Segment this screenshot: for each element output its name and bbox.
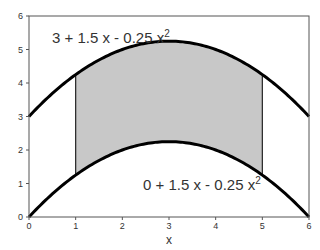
y-tick-label: 2 [18,145,23,155]
y-tick-label: 0 [18,212,23,222]
upper-curve-label: 3 + 1.5 x - 0.25 x2 [52,28,170,46]
x-tick-label: 4 [213,221,218,231]
x-tick-label: 5 [260,221,265,231]
y-tick-label: 3 [18,112,23,122]
y-tick-label: 4 [18,78,23,88]
shaded-region [76,41,263,175]
x-axis-label: x [166,233,172,247]
y-tick-label: 6 [18,11,23,21]
x-tick-label: 3 [166,221,171,231]
y-tick-label: 5 [18,45,23,55]
y-tick-label: 1 [18,179,23,189]
x-tick-label: 6 [306,221,311,231]
shaded-area [76,41,263,175]
y-axis-ticks: 0123456 [18,11,29,222]
x-tick-label: 2 [120,221,125,231]
chart-svg: 0123456 0123456 x 3 + 1.5 x - 0.25 x2 0 … [0,0,320,250]
x-tick-label: 0 [26,221,31,231]
x-tick-label: 1 [73,221,78,231]
x-axis-ticks: 0123456 [26,217,311,231]
lower-curve-label: 0 + 1.5 x - 0.25 x2 [143,175,261,193]
chart-container: 0123456 0123456 x 3 + 1.5 x - 0.25 x2 0 … [0,0,320,250]
